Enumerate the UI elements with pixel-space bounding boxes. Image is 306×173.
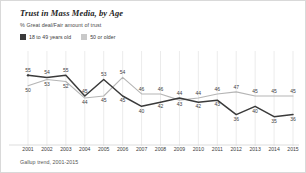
data-label: 50 — [25, 87, 31, 93]
data-label: 44 — [82, 99, 88, 105]
x-tick-label: 2004 — [79, 146, 90, 152]
data-label: 40 — [252, 108, 258, 114]
x-tick-label: 2014 — [268, 146, 279, 152]
x-axis-tick-labels: 2001200220032004200520062007200820092010… — [22, 146, 298, 152]
data-label: 53 — [101, 71, 107, 77]
gridlines — [28, 51, 293, 146]
data-label: 55 — [25, 67, 31, 73]
plot-svg: 505352444554464643444647454545 555455455… — [1, 51, 306, 146]
x-axis: 2001200220032004200520062007200820092010… — [1, 143, 306, 157]
x-tick-label: 2003 — [60, 146, 71, 152]
legend-swatch-older — [81, 34, 87, 40]
plot-area: 505352444554464643444647454545 555455455… — [1, 51, 306, 146]
x-tick-label: 2011 — [212, 146, 223, 152]
x-tick-label: 2009 — [174, 146, 185, 152]
x-tick-label: 2005 — [98, 146, 109, 152]
source-note: Gallup trend, 2001-2015 — [20, 159, 78, 165]
data-label: 42 — [196, 103, 202, 109]
x-axis-svg: 2001200220032004200520062007200820092010… — [1, 143, 306, 157]
data-label: 45 — [252, 88, 258, 94]
data-label: 54 — [120, 69, 126, 75]
x-tick-label: 2006 — [117, 146, 128, 152]
data-label: 45 — [82, 88, 88, 94]
data-label: 43 — [177, 101, 183, 107]
data-label: 45 — [120, 97, 126, 103]
chart-title: Trust in Mass Media, by Age — [20, 8, 123, 18]
data-label: 47 — [233, 84, 239, 90]
legend-label-young: 18 to 49 years old — [29, 34, 71, 40]
legend-swatch-young — [20, 34, 26, 40]
data-label: 46 — [215, 86, 221, 92]
legend-label-older: 50 or older — [90, 34, 115, 40]
data-label: 43 — [215, 101, 221, 107]
x-tick-label: 2012 — [231, 146, 242, 152]
data-label: 54 — [44, 69, 50, 75]
x-tick-label: 2013 — [249, 146, 260, 152]
data-label: 40 — [139, 108, 145, 114]
chart-legend: 18 to 49 years old 50 or older — [20, 34, 116, 40]
data-label: 53 — [44, 81, 50, 87]
data-label: 35 — [271, 118, 277, 124]
data-label: 44 — [196, 90, 202, 96]
series-start-marker — [27, 74, 29, 76]
x-tick-label: 2008 — [155, 146, 166, 152]
x-tick-label: 2015 — [287, 146, 298, 152]
data-label: 52 — [63, 83, 69, 89]
data-label: 55 — [63, 67, 69, 73]
data-label: 42 — [158, 103, 164, 109]
x-tick-label: 2010 — [193, 146, 204, 152]
data-label: 45 — [101, 97, 107, 103]
x-tick-label: 2002 — [41, 146, 52, 152]
data-label: 46 — [139, 86, 145, 92]
data-label: 46 — [158, 86, 164, 92]
legend-item-young[interactable]: 18 to 49 years old — [20, 34, 71, 40]
x-tick-label: 2007 — [136, 146, 147, 152]
chart-subtitle: % Great deal/Fair amount of trust — [20, 22, 101, 28]
data-label: 36 — [290, 116, 296, 122]
legend-item-older[interactable]: 50 or older — [81, 34, 115, 40]
x-tick-label: 2001 — [22, 146, 33, 152]
data-label: 45 — [271, 88, 277, 94]
data-label: 36 — [233, 116, 239, 122]
data-label: 45 — [290, 88, 296, 94]
chart-figure: Trust in Mass Media, by Age % Great deal… — [0, 0, 306, 173]
data-label: 44 — [177, 90, 183, 96]
